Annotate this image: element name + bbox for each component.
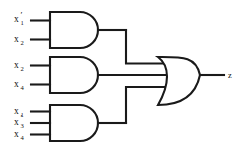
label-and3-input-3-base: x bbox=[14, 129, 19, 139]
signal-label-layer: x 1 ′ x 2 x 2 x 4 x 1 x 3 ′ bbox=[0, 0, 240, 157]
label-and3-input-2-base: x bbox=[14, 117, 19, 127]
label-and1-input-2-base: x bbox=[14, 34, 19, 44]
label-and2-input-1: x 2 bbox=[14, 60, 24, 72]
label-and3-input-3-subscript: 4 bbox=[21, 134, 25, 141]
label-and3-input-2-subscript: 3 bbox=[21, 122, 25, 129]
label-and2-input-1-base: x bbox=[14, 60, 19, 70]
logic-circuit-diagram: x 1 ′ x 2 x 2 x 4 x 1 x 3 ′ bbox=[0, 0, 240, 157]
output-label-base: z bbox=[228, 70, 232, 80]
label-and1-input-1-subscript: 1 bbox=[21, 19, 24, 26]
label-and2-input-2-base: x bbox=[14, 79, 19, 89]
label-and1-input-1-base: x bbox=[14, 14, 19, 24]
label-and1-input-1-prime: ′ bbox=[21, 10, 23, 20]
label-and1-input-2-subscript: 2 bbox=[21, 39, 24, 46]
label-and3-input-1-base: x bbox=[14, 106, 19, 116]
label-and2-input-2-subscript: 4 bbox=[21, 84, 25, 91]
label-and2-input-1-subscript: 2 bbox=[21, 65, 24, 72]
label-and2-input-2: x 4 bbox=[14, 79, 25, 91]
label-and1-input-2: x 2 bbox=[14, 34, 24, 46]
label-and1-input-1: x 1 ′ bbox=[14, 10, 24, 27]
label-and3-input-3: x 4 bbox=[14, 129, 25, 141]
label-and3-input-2-prime: ′ bbox=[21, 113, 23, 123]
label-output: z bbox=[228, 70, 232, 80]
